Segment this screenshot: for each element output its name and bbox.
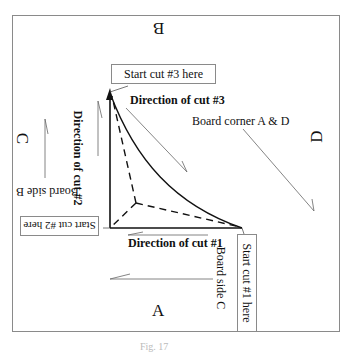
- callout-start-cut-2: Start cut #2 here: [20, 216, 99, 236]
- side-label-left: C: [14, 133, 31, 144]
- arrow-board-side-b: [45, 119, 48, 178]
- dashed-line-to-right: [136, 203, 240, 227]
- arrow-direction-cut-2: [98, 101, 102, 156]
- connector-cut-3: [110, 86, 128, 92]
- board-corner-label: Board corner A & D: [192, 115, 289, 127]
- figure-caption: Fig. 17: [140, 341, 168, 352]
- side-label-bottom: A: [152, 302, 164, 319]
- side-label-right: D: [308, 130, 325, 142]
- callout-start-cut-3: Start cut #3 here: [111, 64, 216, 84]
- arrow-direction-cut-1: [128, 232, 208, 235]
- board-side-c-label: Board side C: [215, 247, 227, 310]
- direction-cut-3-label: Direction of cut #3: [130, 94, 225, 106]
- board-side-b-label: Board side B: [16, 186, 79, 198]
- callout-start-cut-1: Start cut #1 here: [237, 234, 257, 332]
- direction-cut-1-label: Direction of cut #1: [128, 237, 223, 249]
- arrow-board-corner: [243, 129, 314, 211]
- arrow-direction-cut-3: [126, 108, 187, 172]
- dashed-line-to-corner: [110, 203, 136, 228]
- arrowhead-top: [106, 88, 113, 100]
- side-label-top: B: [153, 20, 164, 37]
- dashed-line-to-top: [112, 96, 136, 203]
- arrow-board-side-c: [110, 274, 213, 279]
- cut-diagram: [0, 0, 349, 352]
